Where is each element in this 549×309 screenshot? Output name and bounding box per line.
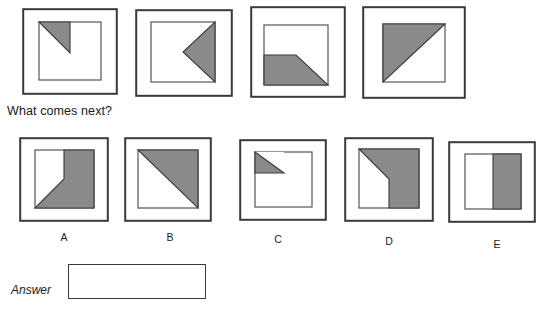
option-b-panel[interactable] xyxy=(124,137,212,222)
option-letter-b: B xyxy=(160,231,180,243)
option-d-panel[interactable] xyxy=(344,137,434,222)
option-letter-e: E xyxy=(487,238,507,250)
sequence-panel-4 xyxy=(362,6,466,99)
sequence-panel-3 xyxy=(250,6,346,98)
option-letter-a: A xyxy=(54,231,74,243)
option-letter-c: C xyxy=(268,233,288,245)
answer-input-box[interactable] xyxy=(68,264,206,299)
option-a-panel[interactable] xyxy=(19,137,109,222)
worksheet-canvas: What comes next? xyxy=(0,0,549,309)
option-e-panel[interactable] xyxy=(448,141,536,223)
sequence-panel-2 xyxy=(135,9,233,97)
option-c-panel[interactable] xyxy=(239,139,327,221)
question-prompt: What comes next? xyxy=(7,104,112,118)
sequence-panel-1 xyxy=(22,8,118,95)
option-letter-d: D xyxy=(379,235,399,247)
answer-label: Answer xyxy=(11,283,51,297)
